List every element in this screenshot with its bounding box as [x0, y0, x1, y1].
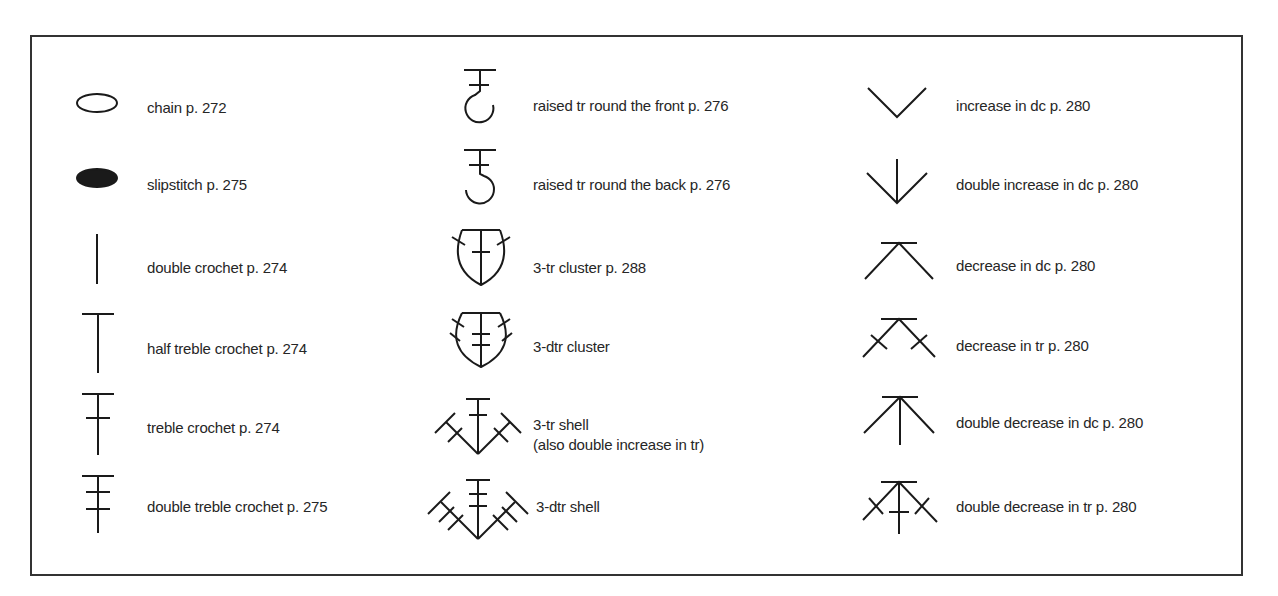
legend-label: 3-dtr cluster — [533, 337, 610, 356]
raised-tr-front-icon — [460, 68, 500, 132]
double-treble-crochet-icon — [80, 475, 116, 535]
legend-label: double decrease in tr p. 280 — [956, 497, 1136, 516]
treble-crochet-icon — [80, 393, 116, 457]
decrease-tr-icon — [861, 317, 937, 359]
double-decrease-dc-icon — [862, 395, 936, 447]
double-increase-dc-icon — [865, 157, 931, 207]
legend-label: decrease in dc p. 280 — [956, 256, 1095, 275]
legend-label: half treble crochet p. 274 — [147, 339, 307, 358]
legend-label: raised tr round the front p. 276 — [533, 96, 728, 115]
legend-label: decrease in tr p. 280 — [956, 336, 1089, 355]
legend-label: raised tr round the back p. 276 — [533, 175, 730, 194]
legend-label-secondary: (also double increase in tr) — [533, 435, 704, 454]
legend-label: 3-dtr shell — [536, 497, 600, 516]
legend-label: double crochet p. 274 — [147, 258, 287, 277]
increase-dc-icon — [866, 86, 930, 120]
chain-icon — [75, 92, 119, 114]
double-decrease-tr-icon — [861, 480, 941, 536]
legend-label: slipstitch p. 275 — [147, 175, 247, 194]
3-dtr-cluster-icon — [450, 311, 514, 369]
legend-label: 3-tr cluster p. 288 — [533, 258, 646, 277]
3-dtr-shell-icon — [426, 478, 530, 542]
legend-label: double treble crochet p. 275 — [147, 497, 327, 516]
legend-label: 3-tr shell — [533, 415, 589, 434]
legend-label: double decrease in dc p. 280 — [956, 413, 1143, 432]
raised-tr-back-icon — [460, 148, 500, 212]
legend-label: chain p. 272 — [147, 98, 226, 117]
3-tr-shell-icon — [433, 397, 525, 457]
legend-label: double increase in dc p. 280 — [956, 175, 1138, 194]
3-tr-cluster-icon — [452, 228, 512, 288]
decrease-dc-icon — [863, 241, 935, 281]
legend-label: treble crochet p. 274 — [147, 418, 280, 437]
half-treble-crochet-icon — [80, 313, 116, 375]
double-crochet-icon — [87, 234, 107, 286]
slipstitch-icon — [75, 167, 119, 189]
legend-label: increase in dc p. 280 — [956, 96, 1090, 115]
